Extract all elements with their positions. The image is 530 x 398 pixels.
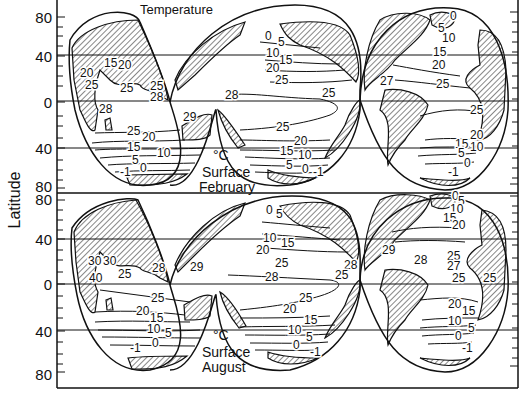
- isotherm-label: 30: [103, 254, 117, 268]
- isotherm-label: 5: [286, 158, 293, 172]
- lat-tick-feb-0: 0: [44, 94, 52, 111]
- caption-line2-aug: August: [202, 359, 246, 375]
- isotherm-label: 5: [132, 153, 139, 167]
- left-axis-labels: 80 40 0 40 80 80 40 0 40 80: [35, 9, 52, 383]
- figure-title: Temperature: [140, 2, 213, 17]
- lat-tick-aug-40s: 40: [35, 323, 52, 340]
- lat-tick-aug-40n: 40: [35, 231, 52, 248]
- isotherm-label: 25: [118, 267, 132, 281]
- isotherm-label: 27: [380, 74, 394, 88]
- isotherm-label: 25: [85, 78, 99, 92]
- isotherm-label: 28: [414, 253, 428, 267]
- caption-line1-feb: Surface: [202, 164, 250, 180]
- isotherm-label: 5: [165, 326, 172, 340]
- isotherm-label: -1: [120, 165, 131, 179]
- isotherm-label: 25: [275, 73, 289, 87]
- isotherm-label: -1: [313, 165, 324, 179]
- isotherm-label: 0: [265, 29, 272, 43]
- isotherm-label: 0: [455, 329, 462, 343]
- isotherm-label: 25: [483, 271, 497, 285]
- isotherm-label: 10: [442, 31, 456, 45]
- isotherm-label: 20: [432, 58, 446, 72]
- isotherm-label: 20: [142, 130, 156, 144]
- isotherm-label: 25: [322, 86, 336, 100]
- unit-label-feb: °C: [213, 147, 229, 163]
- isotherm-label: 28: [265, 270, 279, 284]
- lat-tick-aug-80s: 80: [35, 366, 52, 383]
- isotherm-label: 10: [288, 323, 302, 337]
- isotherm-label: 30: [88, 254, 102, 268]
- isotherm-label: 10: [448, 314, 462, 328]
- isotherm-label: 5: [276, 207, 283, 221]
- isotherm-label: 29: [190, 260, 204, 274]
- lat-tick-aug-80n: 80: [35, 191, 52, 208]
- isotherm-label: 28: [152, 261, 166, 275]
- left-axis-ticks: [57, 17, 65, 372]
- lat-tick-feb-40s: 40: [35, 140, 52, 157]
- isotherm-label: 28: [150, 90, 164, 104]
- isotherm-label: 0: [464, 156, 471, 170]
- isotherm-label: 15: [279, 53, 293, 67]
- isotherm-label: 20: [448, 297, 462, 311]
- isotherm-label: 15: [104, 56, 118, 70]
- panel-february: 1520202525252828292520151050-12805101520…: [57, 5, 518, 195]
- isotherm-label: 20: [118, 58, 132, 72]
- isotherm-label: 15: [280, 144, 294, 158]
- isotherm-label: 15: [462, 304, 476, 318]
- isotherm-label: 15: [433, 45, 447, 59]
- isotherm-label: 0: [140, 161, 147, 175]
- isotherm-label: 29: [382, 243, 396, 257]
- y-axis-label: Latitude: [6, 171, 23, 228]
- isotherm-label: 25: [335, 268, 349, 282]
- isotherm-label: 25: [436, 77, 450, 91]
- lat-tick-feb-40n: 40: [35, 48, 52, 65]
- isotherm-label: -1: [130, 341, 141, 355]
- isotherm-label: 5: [468, 321, 475, 335]
- isotherm-label: 25: [276, 120, 290, 134]
- isotherm-label: 15: [127, 140, 141, 154]
- lat-tick-aug-0: 0: [44, 276, 52, 293]
- caption-line2-feb: February: [199, 179, 255, 195]
- sst-figure: Latitude 80 40 0 40 80 80 40 0 40 80: [0, 0, 530, 398]
- isotherm-label: 15: [304, 313, 318, 327]
- isotherm-label: -1: [462, 341, 473, 355]
- isotherm-label: 0: [450, 9, 457, 23]
- isotherm-label: 10: [266, 46, 280, 60]
- isotherm-label: 28: [225, 88, 239, 102]
- isotherm-label: -1: [310, 345, 321, 359]
- isotherm-label: 0: [266, 203, 273, 217]
- isotherm-label: 0: [293, 338, 300, 352]
- isotherm-label: 25: [127, 124, 141, 138]
- panel-august: 30304025282520151050-1051015202529282825…: [57, 189, 518, 375]
- lat-tick-feb-80n: 80: [35, 9, 52, 26]
- isotherm-label: 10: [470, 140, 484, 154]
- isotherm-label: 0: [152, 336, 159, 350]
- isotherm-label: 20: [136, 304, 150, 318]
- isotherm-label: 25: [299, 291, 313, 305]
- isotherm-label: 20: [294, 134, 308, 148]
- isotherm-label: 10: [298, 148, 312, 162]
- right-axis-ticks: [510, 12, 518, 366]
- isotherm-label: 20: [452, 218, 466, 232]
- isotherm-label: -1: [448, 165, 459, 179]
- isotherm-label: 5: [306, 330, 313, 344]
- isotherm-label: 25: [151, 291, 165, 305]
- isotherm-label: 29: [183, 110, 197, 124]
- isotherm-label: 20: [283, 302, 297, 316]
- isotherm-label: 20: [256, 243, 270, 257]
- unit-label-aug: °C: [213, 327, 229, 343]
- isotherm-label: 25: [120, 81, 134, 95]
- isotherm-label: 10: [147, 322, 161, 336]
- isotherm-label: 25: [452, 271, 466, 285]
- isotherm-label: 25: [275, 256, 289, 270]
- isotherm-label: 25: [470, 103, 484, 117]
- isotherm-label: 28: [99, 102, 113, 116]
- isotherm-label: 40: [89, 271, 103, 285]
- isotherm-label: 0: [302, 162, 309, 176]
- isotherm-label: 15: [281, 236, 295, 250]
- isotherm-label: 10: [157, 146, 171, 160]
- caption-line1-aug: Surface: [202, 344, 250, 360]
